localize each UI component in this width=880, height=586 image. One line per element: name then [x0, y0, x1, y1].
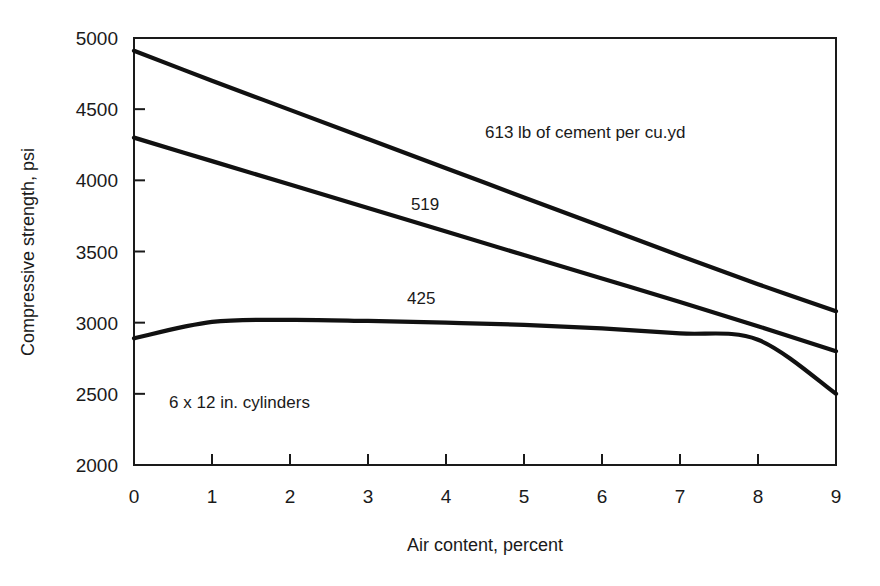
y-tick-label: 2500 — [76, 384, 118, 405]
y-tick-label: 3500 — [76, 242, 118, 263]
y-tick-label: 3000 — [76, 313, 118, 334]
x-tick-label: 4 — [441, 486, 452, 507]
x-axis-title: Air content, percent — [407, 535, 563, 555]
x-tick-label: 6 — [597, 486, 608, 507]
series-425-label: 425 — [407, 289, 435, 308]
x-tick-label: 5 — [519, 486, 530, 507]
x-tick-label: 3 — [363, 486, 374, 507]
x-tick-label: 1 — [207, 486, 218, 507]
series-519-label: 519 — [411, 195, 439, 214]
x-tick-label: 9 — [831, 486, 842, 507]
compressive-strength-vs-air-content-chart: 2000250030003500400045005000 0123456789 … — [0, 0, 880, 586]
y-axis-title: Compressive strength, psi — [18, 148, 38, 356]
series-613-label: 613 lb of cement per cu.yd — [485, 123, 685, 142]
x-tick-label: 0 — [129, 486, 140, 507]
y-tick-label: 2000 — [76, 455, 118, 476]
chart-container: 2000250030003500400045005000 0123456789 … — [0, 0, 880, 586]
y-tick-label: 5000 — [76, 28, 118, 49]
y-tick-label: 4500 — [76, 99, 118, 120]
y-tick-label: 4000 — [76, 170, 118, 191]
specimen-note: 6 x 12 in. cylinders — [169, 393, 310, 412]
x-tick-label: 8 — [753, 486, 764, 507]
x-tick-label: 7 — [675, 486, 686, 507]
x-tick-label: 2 — [285, 486, 296, 507]
